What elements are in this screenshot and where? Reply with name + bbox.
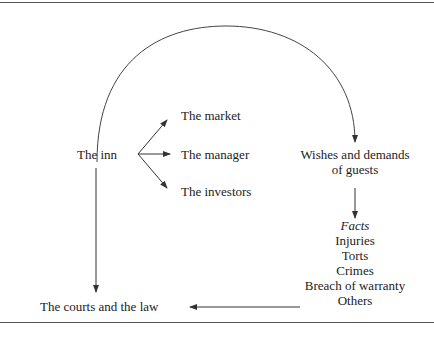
node-facts: Facts Injuries Torts Crimes Breach of wa… [295,218,415,308]
facts-item: Breach of warranty [295,278,415,293]
facts-title: Facts [295,218,415,233]
node-manager: The manager [181,147,249,162]
arrow-to-investors [138,154,167,188]
wishes-line2: of guests [295,162,415,177]
facts-item: Torts [295,248,415,263]
node-inn: The inn [77,147,117,162]
facts-item: Crimes [295,263,415,278]
arc-arrow [97,26,355,162]
facts-item: Injuries [295,233,415,248]
node-market: The market [181,108,241,123]
arrow-to-market [138,120,167,154]
node-courts: The courts and the law [40,299,158,314]
wishes-line1: Wishes and demands [295,147,415,162]
facts-item: Others [295,293,415,308]
node-investors: The investors [181,184,251,199]
node-wishes: Wishes and demands of guests [295,147,415,177]
